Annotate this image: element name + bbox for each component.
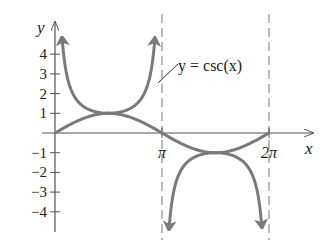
annotation-label: y = csc(x) xyxy=(178,57,242,75)
x-tick-label: 2π xyxy=(261,144,278,161)
y-tick-label: 3 xyxy=(40,66,48,82)
x-tick-label: π xyxy=(158,144,167,161)
y-tick-label: −3 xyxy=(31,184,47,200)
y-tick-label: −4 xyxy=(31,204,47,220)
y-tick-label: 4 xyxy=(40,46,48,62)
annotation-leader xyxy=(158,64,178,83)
asymptotes xyxy=(162,14,269,240)
y-tick-label: −2 xyxy=(31,164,47,180)
y-tick-label: −1 xyxy=(31,145,47,161)
csc-curve xyxy=(62,43,154,114)
x-axis-label: x xyxy=(304,139,313,158)
csc-graph: 4321−1−2−3−4π2π y x y = csc(x) xyxy=(0,0,336,247)
y-axis-label: y xyxy=(35,18,45,37)
y-tick-label: 2 xyxy=(40,86,48,102)
csc-curve xyxy=(169,153,261,224)
y-tick-label: 1 xyxy=(40,105,48,121)
